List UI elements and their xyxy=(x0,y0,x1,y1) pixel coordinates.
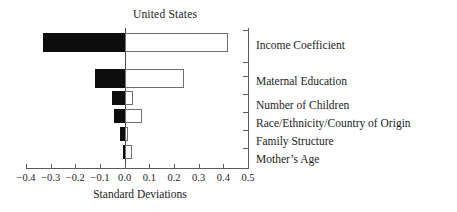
bar-row xyxy=(26,33,248,52)
category-label: Number of Children xyxy=(256,100,349,112)
x-axis-line xyxy=(26,168,248,169)
x-axis-tick xyxy=(51,164,52,168)
bar-row xyxy=(26,109,248,123)
bar-positive-segment xyxy=(125,69,184,88)
y-axis-tick xyxy=(243,94,248,95)
x-axis-tick-label: 0.5 xyxy=(228,172,268,183)
x-axis-tick xyxy=(174,164,175,168)
category-label: Income Coefficient xyxy=(256,40,345,52)
x-axis-tick xyxy=(149,164,150,168)
y-axis-tick xyxy=(243,62,248,63)
plot-area xyxy=(26,28,248,168)
bar-negative-segment xyxy=(95,69,125,88)
bar-positive-segment xyxy=(125,145,132,159)
x-axis-tick xyxy=(199,164,200,168)
chart-title: United States xyxy=(0,8,330,20)
bar-row xyxy=(26,69,248,88)
bar-positive-segment xyxy=(125,91,134,105)
y-axis-spine xyxy=(248,28,249,169)
y-axis-tick xyxy=(243,130,248,131)
category-label: Family Structure xyxy=(256,136,334,148)
x-axis-tick xyxy=(223,164,224,168)
y-axis-tick xyxy=(243,112,248,113)
bar-row xyxy=(26,145,248,159)
category-label: Maternal Education xyxy=(256,76,347,88)
y-axis-tick xyxy=(243,168,248,169)
bar-negative-segment xyxy=(114,109,125,123)
bar-row xyxy=(26,91,248,105)
bar-positive-segment xyxy=(125,109,142,123)
bar-negative-segment xyxy=(43,33,124,52)
bar-row xyxy=(26,127,248,141)
bar-negative-segment xyxy=(112,91,124,105)
x-axis-tick xyxy=(125,164,126,168)
bar-positive-segment xyxy=(125,127,129,141)
bar-positive-segment xyxy=(125,33,229,52)
category-label: Race/Ethnicity/Country of Origin xyxy=(256,118,411,130)
y-axis-tick xyxy=(243,76,248,77)
y-axis-tick xyxy=(243,148,248,149)
y-axis-tick xyxy=(243,30,248,31)
x-axis-title: Standard Deviations xyxy=(0,188,280,200)
category-label: Mother’s Age xyxy=(256,154,319,166)
x-axis-tick xyxy=(26,164,27,168)
x-axis-tick xyxy=(100,164,101,168)
x-axis-tick xyxy=(75,164,76,168)
chart-figure: United States −0.4−0.3−0.2−0.10.00.10.20… xyxy=(0,0,457,212)
